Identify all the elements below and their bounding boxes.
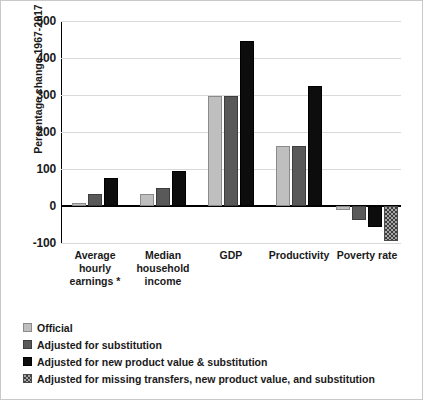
bar <box>308 86 322 206</box>
bar <box>240 41 254 206</box>
y-tick-label-400: 400 <box>4 51 56 65</box>
x-category-label: Poverty rate <box>333 249 401 262</box>
y-tick-label--100: -100 <box>4 236 56 250</box>
x-category-label-line: GDP <box>197 249 265 262</box>
bar <box>336 206 350 210</box>
y-tick-label-100: 100 <box>4 162 56 176</box>
bar <box>276 146 290 206</box>
y-tick-label-200: 200 <box>4 125 56 139</box>
x-category-label-line: Average <box>61 249 129 262</box>
legend-label: Official <box>37 322 73 334</box>
bar-group <box>333 21 401 243</box>
x-category-label: GDP <box>197 249 265 262</box>
y-tick-label-500: 500 <box>4 14 56 28</box>
bar <box>72 203 86 206</box>
bar-chart-figure: Percentage change 1967-2017 500400300200… <box>0 0 423 400</box>
bar <box>384 206 398 241</box>
bar <box>368 206 382 227</box>
bar-group <box>129 21 197 243</box>
x-category-label-line: Median <box>129 249 197 262</box>
bar <box>172 171 186 206</box>
legend-swatch-icon <box>23 374 32 383</box>
legend-swatch-icon <box>23 323 32 332</box>
bar <box>208 96 222 206</box>
x-category-label-line: Productivity <box>265 249 333 262</box>
legend-item[interactable]: Adjusted for new product value & substit… <box>23 353 413 370</box>
plot-area <box>61 21 401 243</box>
bar <box>156 188 170 206</box>
bar <box>224 96 238 206</box>
legend-item[interactable]: Adjusted for substitution <box>23 336 413 353</box>
x-axis-category-labels: Averagehourlyearnings *Medianhouseholdin… <box>61 249 401 305</box>
legend-label: Adjusted for missing transfers, new prod… <box>37 373 375 385</box>
bar-group <box>61 21 129 243</box>
x-category-label: Medianhouseholdincome <box>129 249 197 288</box>
chart-legend: OfficialAdjusted for substitutionAdjuste… <box>23 319 413 387</box>
legend-item[interactable]: Official <box>23 319 413 336</box>
x-category-label-line: hourly <box>61 262 129 275</box>
x-category-label-line: household <box>129 262 197 275</box>
bar-group <box>197 21 265 243</box>
bar <box>140 194 154 206</box>
x-category-label: Productivity <box>265 249 333 262</box>
bar <box>352 206 366 220</box>
y-tick-label-0: 0 <box>4 199 56 213</box>
y-tick-label-300: 300 <box>4 88 56 102</box>
x-category-label-line: income <box>129 275 197 288</box>
legend-label: Adjusted for substitution <box>37 339 162 351</box>
x-category-label: Averagehourlyearnings * <box>61 249 129 288</box>
legend-swatch-icon <box>23 340 32 349</box>
bar <box>88 194 102 206</box>
x-category-label-line: earnings * <box>61 275 129 288</box>
legend-label: Adjusted for new product value & substit… <box>37 356 267 368</box>
x-category-label-line: Poverty rate <box>333 249 401 262</box>
bar <box>104 178 118 206</box>
bar-group <box>265 21 333 243</box>
gridline--100 <box>61 243 401 244</box>
y-axis-tick-labels: 5004003002001000-100 <box>1 21 56 243</box>
bar <box>292 146 306 206</box>
legend-swatch-icon <box>23 357 32 366</box>
legend-item[interactable]: Adjusted for missing transfers, new prod… <box>23 370 413 387</box>
